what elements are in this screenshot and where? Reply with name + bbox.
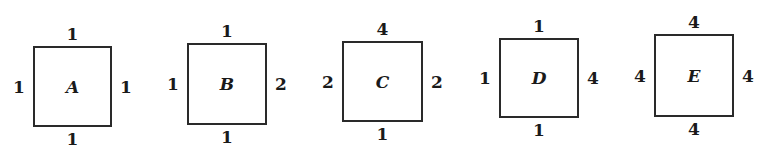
top-side-label: 1 [221,23,233,40]
square-e: E4444 [654,34,734,117]
top-edge [187,43,267,45]
left-edge [187,43,189,125]
left-side-label: 1 [167,76,179,93]
bottom-side-label: 4 [688,121,700,138]
top-side-label: 1 [67,26,79,43]
right-edge [265,43,267,125]
right-side-label: 4 [587,70,599,87]
square-c: C4122 [342,41,423,122]
bottom-side-label: 1 [221,129,233,146]
square-name: D [532,70,547,87]
right-edge [732,34,734,117]
square-name: A [66,78,79,95]
square-a: A1111 [33,46,112,127]
bottom-edge [187,123,267,125]
top-edge [342,41,423,43]
right-side-label: 2 [275,76,287,93]
top-side-label: 1 [533,18,545,35]
bottom-side-label: 1 [67,131,79,148]
square-d: D1114 [499,38,579,118]
bottom-edge [654,115,734,117]
left-edge [499,38,501,118]
bottom-side-label: 1 [533,122,545,139]
right-side-label: 1 [120,78,132,95]
top-side-label: 4 [377,21,389,38]
left-edge [342,41,344,122]
right-side-label: 4 [742,67,754,84]
top-edge [499,38,579,40]
bottom-edge [33,125,112,127]
right-edge [110,46,112,127]
top-edge [33,46,112,48]
square-b: B1112 [187,43,267,125]
right-edge [421,41,423,122]
left-side-label: 1 [479,70,491,87]
square-name: E [688,67,701,84]
right-side-label: 2 [431,73,443,90]
left-side-label: 2 [322,73,334,90]
top-side-label: 4 [688,14,700,31]
left-edge [654,34,656,117]
left-side-label: 1 [13,78,25,95]
bottom-edge [342,120,423,122]
left-edge [33,46,35,127]
top-edge [654,34,734,36]
bottom-side-label: 1 [377,126,389,143]
square-name: C [376,73,390,90]
right-edge [577,38,579,118]
left-side-label: 4 [634,67,646,84]
bottom-edge [499,116,579,118]
square-name: B [220,76,234,93]
